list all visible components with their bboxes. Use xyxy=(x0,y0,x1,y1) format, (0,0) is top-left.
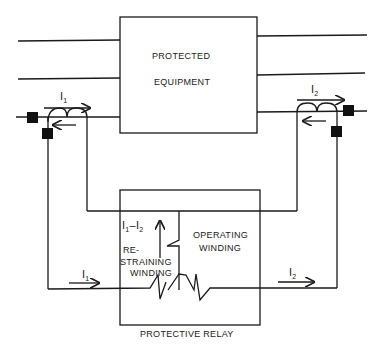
left-wire-current-label: I1 xyxy=(82,268,90,280)
right-breaker-line xyxy=(343,105,354,116)
right-wire-current-label: I2 xyxy=(289,266,297,278)
difference-current-label: I1–I2 xyxy=(122,219,144,231)
protected-equipment-box xyxy=(120,17,257,133)
left-ct-current-label: I1 xyxy=(60,90,68,102)
operating-winding-label-1: OPERATING xyxy=(193,230,248,240)
left-breaker-line xyxy=(27,112,38,123)
right-breaker-ct xyxy=(331,126,342,137)
left-breaker-ct xyxy=(42,128,53,139)
right-ct-current-label: I2 xyxy=(311,83,319,95)
restraining-winding-label-2: STRAINING xyxy=(120,257,172,267)
protective-relay-caption: PROTECTIVE RELAY xyxy=(140,329,234,339)
differential-protection-diagram: PROTECTED EQUIPMENT I1 I2 I1 I2 I1–I2 RE… xyxy=(0,0,380,352)
restraining-winding-label-3: WINDING xyxy=(130,268,172,278)
equipment-label-line2: EQUIPMENT xyxy=(154,77,210,87)
equipment-label-line1: PROTECTED xyxy=(152,51,210,61)
restraining-winding-label-1: RE- xyxy=(123,245,139,255)
operating-winding-label-2: WINDING xyxy=(199,243,241,253)
